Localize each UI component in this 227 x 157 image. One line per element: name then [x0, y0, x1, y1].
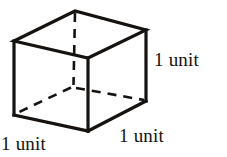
label-bottom-left-edge: 1 unit: [1, 134, 46, 153]
hidden-edge-to-bottom-right: [76, 88, 144, 100]
hidden-edge-to-bottom-left: [16, 88, 71, 114]
label-right-edge: 1 unit: [154, 50, 199, 69]
bottom-left-edge: [14, 115, 88, 131]
figure-canvas: 1 unit 1 unit 1 unit: [0, 0, 227, 157]
hidden-edge-vertical: [74, 13, 76, 85]
hidden-edges-group: [16, 13, 144, 114]
top-face-outline: [14, 11, 146, 58]
visible-edges-group: [14, 11, 146, 131]
label-bottom-right-edge: 1 unit: [119, 126, 164, 145]
